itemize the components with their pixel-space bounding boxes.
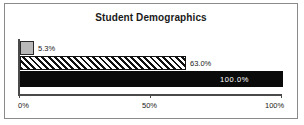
axis-tick-50 — [150, 94, 151, 98]
bar-value-label: 63.0% — [186, 59, 211, 68]
bar-row[interactable]: 100.0% — [20, 71, 282, 87]
bar-value-label: 5.3% — [34, 44, 55, 53]
bar-row[interactable]: 5.3% — [20, 41, 282, 55]
axis-tick-label-100: 100% — [265, 101, 284, 110]
bar-segment-hatched[interactable] — [20, 56, 186, 70]
chart-title: Student Demographics — [5, 12, 297, 23]
axis-tick-label-50: 50% — [142, 101, 157, 110]
bar-row[interactable]: 63.0% — [20, 56, 282, 70]
chart-frame: Student Demographics 0% 50% 100% 5.3% 63… — [4, 3, 298, 119]
bar-value-label: 100.0% — [220, 75, 249, 84]
axis-tick-100 — [281, 94, 282, 98]
axis-tick-0 — [19, 94, 20, 98]
bar-segment-gray[interactable] — [20, 41, 34, 55]
plot-area: 0% 50% 100% 5.3% 63.0% 100.0% — [18, 39, 290, 94]
axis-tick-label-0: 0% — [18, 101, 29, 110]
